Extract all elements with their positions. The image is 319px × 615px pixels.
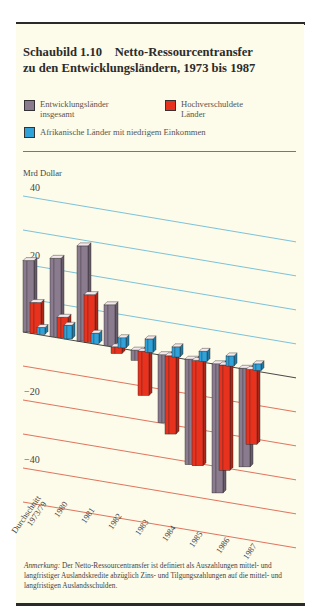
y-tick-label: −20 bbox=[24, 386, 40, 397]
bar-2 bbox=[172, 344, 183, 357]
bar-2 bbox=[118, 335, 129, 348]
x-tick-label: 1984 bbox=[160, 523, 178, 543]
bar-1 bbox=[138, 348, 152, 395]
bar-2 bbox=[37, 325, 48, 335]
bottom-frame-bar bbox=[16, 603, 305, 606]
bar-2 bbox=[64, 322, 75, 339]
y-tick-label: 40 bbox=[30, 182, 40, 193]
bar-0 bbox=[104, 302, 118, 346]
x-tick-label: 1986 bbox=[214, 535, 232, 555]
footnote: Anmerkung: Der Netto-Ressourcentransfer … bbox=[24, 561, 304, 591]
bar-2 bbox=[253, 361, 264, 371]
bar-1 bbox=[219, 362, 233, 470]
bar-1 bbox=[246, 366, 260, 444]
bar-1 bbox=[165, 353, 179, 434]
bar-2 bbox=[199, 348, 210, 361]
footnote-label: Anmerkung: bbox=[24, 561, 60, 570]
bar-2 bbox=[226, 353, 237, 366]
bar-1 bbox=[192, 357, 206, 465]
bar-2 bbox=[145, 336, 156, 353]
y-tick-label: −40 bbox=[24, 454, 40, 465]
bar-2 bbox=[91, 330, 102, 343]
x-tick-label: 1983 bbox=[133, 517, 151, 537]
grid-line bbox=[23, 196, 296, 242]
x-tick-label: 1981 bbox=[79, 505, 97, 525]
bar-chart: 40200−20−40Durchschnitt1973/791980198119… bbox=[0, 0, 319, 615]
footnote-text: Der Netto-Ressourcentransfer ist definie… bbox=[24, 561, 282, 590]
x-tick-label: 1987 bbox=[241, 541, 259, 561]
x-tick-label: 1982 bbox=[106, 511, 124, 531]
